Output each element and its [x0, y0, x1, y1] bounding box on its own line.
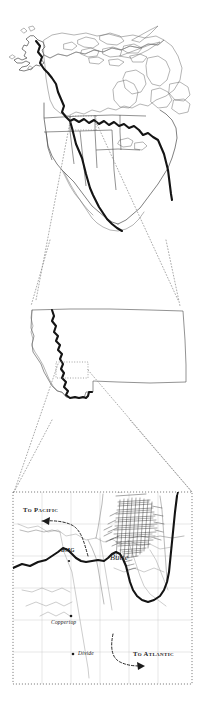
butte-label: Butte: [110, 553, 129, 562]
divide-location-figure: To Pacific Butte BMG Coppertop Divide To…: [0, 0, 208, 704]
north-america-panel: [0, 0, 208, 240]
bmo-marker: [68, 560, 70, 562]
coppertop-label: Coppertop: [51, 619, 76, 625]
to-pacific-label: To Pacific: [23, 506, 58, 513]
bmo-label: BMG: [61, 547, 75, 553]
coppertop-marker: [70, 615, 73, 618]
montana-panel: [0, 240, 208, 420]
divide-marker: [72, 653, 75, 656]
butte-detail-panel: To Pacific Butte BMG Coppertop Divide To…: [0, 420, 208, 704]
divide-label: Divide: [77, 650, 94, 656]
to-atlantic-label: To Atlantic: [133, 650, 174, 657]
